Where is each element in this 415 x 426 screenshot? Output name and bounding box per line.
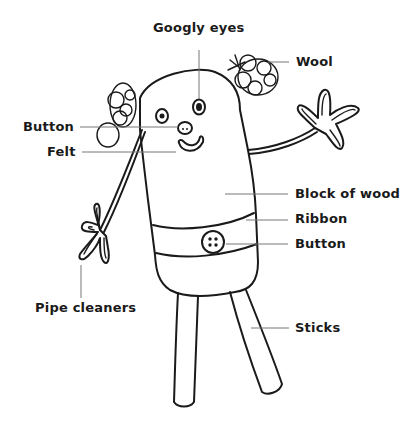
ribbon-top-edge bbox=[153, 213, 254, 228]
label-sticks: Sticks bbox=[295, 320, 340, 335]
label-felt: Felt bbox=[47, 144, 76, 159]
label-pipe-cleaners: Pipe cleaners bbox=[35, 300, 136, 315]
craft-figure-drawing bbox=[0, 0, 415, 426]
right-arm-pipe-cleaner bbox=[248, 90, 359, 154]
left-arm-pipe-cleaner bbox=[79, 130, 145, 263]
nose-button-icon bbox=[178, 122, 192, 134]
felt-smile-icon bbox=[179, 136, 203, 150]
label-button-right: Button bbox=[295, 236, 346, 251]
label-block-of-wood: Block of wood bbox=[295, 186, 400, 201]
googly-eyes-icon bbox=[156, 100, 205, 124]
label-button-left: Button bbox=[23, 119, 74, 134]
label-wool: Wool bbox=[296, 54, 333, 69]
left-wool-icon bbox=[97, 83, 136, 147]
label-googly-eyes: Googly eyes bbox=[153, 20, 244, 35]
label-ribbon: Ribbon bbox=[295, 211, 347, 226]
ribbon-button-icon bbox=[202, 231, 224, 253]
sticks-icon bbox=[174, 290, 282, 407]
diagram-canvas: Googly eyes Wool Button Felt Block of wo… bbox=[0, 0, 415, 426]
